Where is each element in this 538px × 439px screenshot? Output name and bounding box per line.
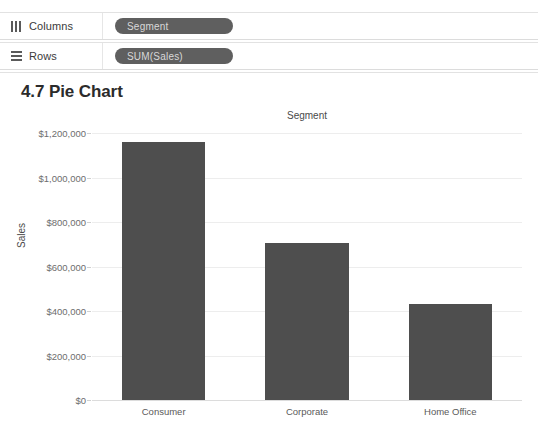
y-tick-mark	[87, 400, 91, 401]
rows-shelf-dropzone[interactable]: SUM(Sales)	[103, 43, 538, 69]
columns-icon	[11, 21, 22, 32]
plot-area	[92, 133, 522, 400]
rows-icon	[11, 51, 22, 62]
bar[interactable]	[265, 243, 348, 400]
y-axis-title: Sales	[16, 223, 27, 248]
pill-sum-sales[interactable]: SUM(Sales)	[115, 48, 233, 64]
y-tick-mark	[87, 133, 91, 134]
columns-shelf[interactable]: Columns Segment	[0, 12, 538, 40]
x-tick-label: Home Office	[424, 406, 477, 417]
bar[interactable]	[122, 142, 205, 400]
bar[interactable]	[409, 304, 492, 400]
x-tick-label: Corporate	[286, 406, 328, 417]
x-tick-label: Consumer	[142, 406, 186, 417]
pill-segment[interactable]: Segment	[115, 18, 233, 34]
x-axis-line	[92, 400, 522, 401]
y-tick-mark	[87, 356, 91, 357]
y-tick-label: $1,200,000	[38, 128, 86, 139]
shelf-divider	[0, 72, 538, 81]
y-tick-label: $600,000	[46, 261, 86, 272]
y-tick-mark	[87, 178, 91, 179]
y-tick-label: $1,000,000	[38, 172, 86, 183]
y-tick-label: $0	[75, 395, 86, 406]
gridline	[92, 133, 522, 134]
columns-shelf-label: Columns	[0, 13, 103, 39]
y-tick-mark	[87, 222, 91, 223]
rows-shelf[interactable]: Rows SUM(Sales)	[0, 42, 538, 70]
columns-shelf-dropzone[interactable]: Segment	[103, 13, 538, 39]
columns-shelf-label-text: Columns	[29, 20, 73, 32]
x-axis-tick-labels: ConsumerCorporateHome Office	[92, 404, 522, 424]
y-tick-mark	[87, 267, 91, 268]
chart-title: Segment	[92, 110, 522, 121]
y-tick-mark	[87, 311, 91, 312]
rows-shelf-label: Rows	[0, 43, 103, 69]
page-title: 4.7 Pie Chart	[21, 82, 123, 102]
y-tick-label: $800,000	[46, 217, 86, 228]
y-tick-label: $400,000	[46, 306, 86, 317]
bar-chart: Segment Sales $0$200,000$400,000$600,000…	[0, 104, 538, 439]
shelf-area: Columns Segment Rows SUM(Sales)	[0, 12, 538, 81]
rows-shelf-label-text: Rows	[29, 50, 57, 62]
y-tick-label: $200,000	[46, 350, 86, 361]
y-axis-tick-labels: $0$200,000$400,000$600,000$800,000$1,000…	[28, 133, 86, 400]
